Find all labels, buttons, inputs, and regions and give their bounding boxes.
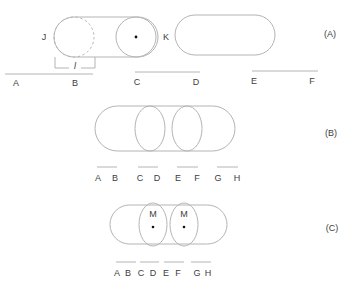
label-j: J <box>42 33 47 42</box>
scale-label-c: C <box>134 78 141 87</box>
scale-label-a: A <box>114 269 120 278</box>
scale-label-d: D <box>154 174 161 183</box>
scale-label-e: E <box>175 174 181 183</box>
scale-label-b: B <box>125 269 131 278</box>
label-length-l: l <box>74 62 76 71</box>
scale-label-e: E <box>251 77 257 86</box>
scale-label-f: F <box>309 77 315 86</box>
scale-label-h: H <box>205 269 212 278</box>
panel-a-center-dot <box>135 36 138 39</box>
scale-label-c: C <box>138 269 145 278</box>
panel-a-tag: (A) <box>324 30 336 39</box>
scale-label-d: D <box>150 269 157 278</box>
panel-b-tag: (B) <box>325 129 337 138</box>
figure-canvas: J K l A B C D E F (A) A B C D E F G H (B… <box>0 0 349 287</box>
scale-label-h: H <box>234 174 241 183</box>
scale-label-b: B <box>72 79 78 88</box>
scale-label-g: G <box>193 269 200 278</box>
diagram-svg <box>0 0 349 287</box>
scale-label-a: A <box>95 174 101 183</box>
scale-label-e: E <box>163 269 169 278</box>
panel-b-ellipse-right <box>172 106 202 151</box>
label-m-left: M <box>149 210 157 219</box>
label-m-right: M <box>180 210 188 219</box>
label-k: K <box>163 33 169 42</box>
panel-c-stadium <box>110 205 227 244</box>
scale-label-f: F <box>175 269 181 278</box>
scale-label-d: D <box>193 78 200 87</box>
scale-label-b: B <box>112 174 118 183</box>
panel-c-dot-left <box>152 226 155 229</box>
panel-b-ellipse-left <box>135 106 165 151</box>
scale-label-c: C <box>137 174 144 183</box>
scale-label-g: G <box>214 174 221 183</box>
scale-label-f: F <box>194 174 200 183</box>
scale-label-a: A <box>13 79 19 88</box>
panel-a-stadium-left <box>54 17 158 57</box>
panel-c-dot-right <box>183 226 186 229</box>
panel-c-tag: (C) <box>326 224 339 233</box>
panel-a-stadium-right <box>175 15 275 55</box>
